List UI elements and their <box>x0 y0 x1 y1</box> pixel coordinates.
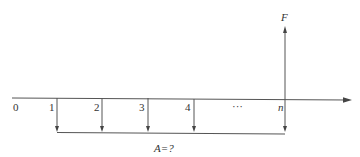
future-value-arrow-up-icon <box>283 26 287 33</box>
annuity-label: A=? <box>153 142 174 154</box>
cash-flow-diagram: 0 1 2 3 4 ··· n A=? F <box>0 0 360 157</box>
timeline-axis <box>12 97 352 103</box>
future-value-label: F <box>280 11 288 23</box>
payment-arrow-down-icon <box>192 126 196 132</box>
period-label-1: 1 <box>49 101 55 113</box>
future-value-arrow <box>283 26 287 99</box>
payment-arrow-down-icon <box>283 126 287 132</box>
annuity-payments <box>55 98 287 134</box>
period-label-3: 3 <box>139 101 145 113</box>
payment-arrow-down-icon <box>55 126 59 132</box>
period-label-2: 2 <box>94 101 100 113</box>
period-label-4: 4 <box>185 101 191 113</box>
payment-arrow-down-icon <box>100 126 104 132</box>
payment-arrow-down-icon <box>146 126 150 132</box>
axis-arrow-icon <box>343 97 352 103</box>
annuity-bracket <box>57 133 285 135</box>
period-label-n: n <box>278 101 284 113</box>
period-label-0: 0 <box>13 101 19 113</box>
period-label-ellipsis: ··· <box>232 100 243 112</box>
